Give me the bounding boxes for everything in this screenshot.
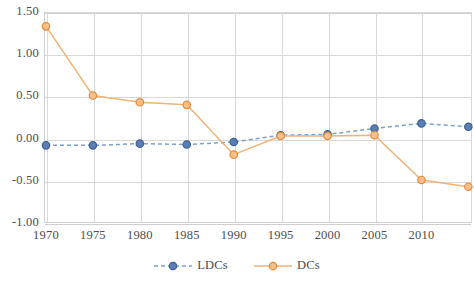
data-point-dcs bbox=[277, 132, 284, 139]
data-point-ldcs bbox=[230, 138, 237, 145]
data-point-dcs bbox=[136, 99, 143, 106]
data-point-dcs bbox=[42, 23, 49, 30]
y-axis-tick-label: -0.50 bbox=[0, 173, 39, 188]
chart-legend: LDCsDCs bbox=[0, 258, 474, 273]
data-point-dcs bbox=[465, 183, 472, 190]
data-point-ldcs bbox=[42, 142, 49, 149]
x-axis-tick-label: 2010 bbox=[396, 228, 446, 243]
y-axis-tick-label: 1.00 bbox=[0, 46, 39, 61]
data-point-ldcs bbox=[136, 140, 143, 147]
data-point-dcs bbox=[230, 151, 237, 158]
legend-swatch-ldcs bbox=[154, 260, 192, 272]
series-line-dcs bbox=[46, 26, 468, 186]
x-axis-tick-label: 2000 bbox=[303, 228, 353, 243]
series-line-ldcs bbox=[46, 123, 468, 145]
data-series-layer bbox=[44, 12, 472, 223]
x-axis-tick-label: 2005 bbox=[350, 228, 400, 243]
data-point-dcs bbox=[418, 176, 425, 183]
x-axis-tick-label: 1980 bbox=[115, 228, 165, 243]
x-axis-tick-label: 1970 bbox=[21, 228, 71, 243]
y-axis-tick-label: 0.50 bbox=[0, 88, 39, 103]
data-point-dcs bbox=[89, 92, 96, 99]
legend-swatch-dcs bbox=[254, 260, 292, 272]
data-point-ldcs bbox=[183, 141, 190, 148]
data-point-ldcs bbox=[89, 142, 96, 149]
data-point-dcs bbox=[371, 132, 378, 139]
data-point-ldcs bbox=[418, 120, 425, 127]
y-axis-tick-label: 1.50 bbox=[0, 4, 39, 19]
y-axis-tick-label: 0.00 bbox=[0, 131, 39, 146]
x-axis-tick-label: 1985 bbox=[162, 228, 212, 243]
legend-item-ldcs[interactable]: LDCs bbox=[154, 258, 228, 273]
data-point-ldcs bbox=[465, 123, 472, 130]
line-chart: 1.501.000.500.00-0.50-1.00 1970197519801… bbox=[0, 0, 474, 289]
data-point-dcs bbox=[324, 132, 331, 139]
x-axis-tick-label: 1990 bbox=[209, 228, 259, 243]
x-axis-tick-label: 1995 bbox=[256, 228, 306, 243]
legend-item-dcs[interactable]: DCs bbox=[254, 258, 320, 273]
data-point-dcs bbox=[183, 101, 190, 108]
legend-label-dcs: DCs bbox=[297, 258, 320, 273]
legend-label-ldcs: LDCs bbox=[197, 258, 228, 273]
gridline-horizontal bbox=[45, 224, 471, 225]
x-axis-tick-label: 1975 bbox=[68, 228, 118, 243]
